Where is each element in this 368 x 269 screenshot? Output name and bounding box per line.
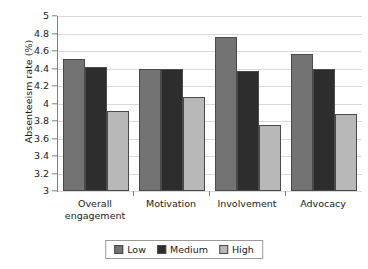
y-axis-tick-label: 3.6 — [34, 134, 49, 144]
bar-group — [286, 16, 362, 191]
bar — [85, 67, 107, 191]
bar — [259, 125, 281, 191]
legend-item: High — [219, 244, 254, 255]
y-axis-tick-labels: 54.84.64.44.243.83.63.43.23 — [0, 16, 57, 191]
y-axis-tick-label: 4 — [43, 99, 49, 109]
legend-swatch-icon — [114, 245, 123, 254]
y-axis-tick-label: 3.2 — [34, 169, 49, 179]
bar — [313, 69, 335, 191]
x-axis-tick-mark — [209, 191, 210, 196]
y-axis-tick-label: 4.2 — [34, 81, 49, 91]
legend-item: Low — [114, 244, 146, 255]
bar-groups — [58, 16, 362, 191]
x-axis-tick-mark — [285, 191, 286, 196]
x-axis-category-label: Involvement — [209, 198, 285, 222]
y-axis-tick-label: 5 — [43, 11, 49, 21]
y-axis-tick-label: 3 — [43, 186, 49, 196]
bar — [291, 54, 313, 191]
bar — [215, 37, 237, 191]
bar — [107, 111, 129, 191]
x-axis-category-label: Motivation — [133, 198, 209, 222]
legend: LowMediumHigh — [105, 240, 263, 259]
bar-group — [134, 16, 210, 191]
x-axis-tick-mark — [133, 191, 134, 196]
y-axis-tick-label: 4.6 — [34, 46, 49, 56]
legend-swatch-icon — [157, 245, 166, 254]
y-axis-tick-label: 4.4 — [34, 64, 49, 74]
y-axis-tick-label: 3.4 — [34, 151, 49, 161]
plot-area — [57, 16, 362, 192]
x-axis-category-labels: Overall engagementMotivationInvolvementA… — [57, 198, 361, 222]
gridline — [58, 191, 362, 192]
legend-item-label: Medium — [170, 244, 208, 255]
bar-chart: Absenteeism rate (%) 54.84.64.44.243.83.… — [0, 0, 368, 269]
legend-swatch-icon — [219, 245, 228, 254]
y-axis-tick-label: 3.8 — [34, 116, 49, 126]
bar — [63, 59, 85, 191]
bar — [161, 69, 183, 192]
legend-item-label: High — [232, 244, 254, 255]
legend-item-label: Low — [127, 244, 146, 255]
bar — [139, 69, 161, 192]
legend-item: Medium — [157, 244, 208, 255]
x-axis-category-label: Overall engagement — [57, 198, 133, 222]
y-axis-tick-label: 4.8 — [34, 29, 49, 39]
x-axis-category-label: Advocacy — [285, 198, 361, 222]
bar — [183, 97, 205, 191]
bar — [335, 114, 357, 191]
bar — [237, 71, 259, 191]
bar-group — [58, 16, 134, 191]
bar-group — [210, 16, 286, 191]
